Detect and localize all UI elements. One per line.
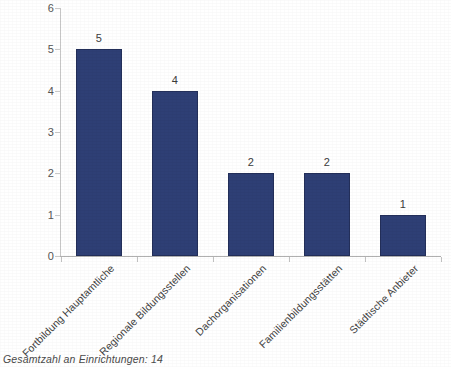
y-tick-label: 4 [8,85,54,97]
bar [76,49,122,256]
y-tick-label: 2 [8,167,54,179]
bar [380,215,426,256]
x-tick-mark [137,257,138,262]
x-axis-line [60,256,441,257]
bar-group: 1 [365,8,441,256]
y-tick-mark [55,132,60,133]
bar-series: 54221 [61,8,441,256]
y-tick-mark [55,8,60,9]
bar-group: 5 [61,8,137,256]
bar [304,173,350,256]
bar-value-label: 2 [248,156,254,168]
x-category-label: Städtische Anbieter [347,262,421,336]
x-tick-mark [213,257,214,262]
y-tick-mark [55,49,60,50]
y-tick-label: 6 [8,2,54,14]
bar-value-label: 5 [96,32,102,44]
x-tick-mark [289,257,290,262]
y-tick-label: 3 [8,126,54,138]
y-tick-label: 5 [8,43,54,55]
bar [228,173,274,256]
x-tick-mark [61,257,62,262]
x-category-label: Regionale Bildungsstellen [97,262,193,358]
bar-value-label: 1 [400,198,406,210]
bar-value-label: 4 [172,74,178,86]
y-tick-label: 1 [8,209,54,221]
bar-group: 2 [213,8,289,256]
x-tick-mark [441,257,442,262]
bar-group: 2 [289,8,365,256]
bar-group: 4 [137,8,213,256]
bar-chart: 0123456 54221 Fortbildung HauptamtlicheR… [0,0,451,367]
y-tick-label: 0 [8,250,54,262]
chart-annotation: Gesamtzahl an Einrichtungen: 14 [3,353,163,365]
x-category-label: Familienbildungsstätten [256,262,344,350]
y-tick-mark [55,173,60,174]
x-category-label: Dachorganisationen [193,262,269,338]
y-tick-mark [55,91,60,92]
y-tick-mark [55,215,60,216]
bar-value-label: 2 [324,156,330,168]
x-tick-mark [365,257,366,262]
bar [152,91,198,256]
